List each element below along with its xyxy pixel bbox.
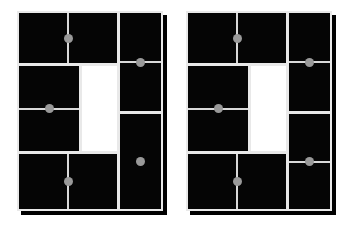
left-panel[interactable] [17, 11, 163, 211]
panel-grid [186, 11, 332, 211]
right-panel[interactable] [186, 11, 332, 211]
grid-cell-top-left[interactable] [19, 13, 117, 63]
grid-cell-center-white[interactable] [251, 66, 286, 151]
dot-marker-icon[interactable] [64, 34, 73, 43]
grid-cell-top-right[interactable] [120, 13, 161, 111]
dot-marker-icon[interactable] [136, 58, 145, 67]
grid-cell-top-left[interactable] [188, 13, 286, 63]
dot-marker-icon[interactable] [214, 104, 223, 113]
dot-marker-icon[interactable] [233, 177, 242, 186]
dot-marker-icon[interactable] [233, 34, 242, 43]
grid-cell-bottom-right[interactable] [289, 114, 330, 209]
grid-cell-mid-left[interactable] [19, 66, 79, 151]
panel-grid [17, 11, 163, 211]
grid-cell-bottom-left[interactable] [19, 154, 117, 209]
dot-marker-icon[interactable] [64, 177, 73, 186]
dot-marker-icon[interactable] [305, 58, 314, 67]
dot-marker-icon[interactable] [45, 104, 54, 113]
grid-cell-top-right[interactable] [289, 13, 330, 111]
dot-marker-icon[interactable] [305, 157, 314, 166]
grid-cell-bottom-right[interactable] [120, 114, 161, 209]
grid-cell-bottom-left[interactable] [188, 154, 286, 209]
scene-stage [0, 0, 347, 225]
dot-marker-icon[interactable] [136, 157, 145, 166]
grid-cell-mid-left[interactable] [188, 66, 248, 151]
grid-cell-center-white[interactable] [82, 66, 117, 151]
